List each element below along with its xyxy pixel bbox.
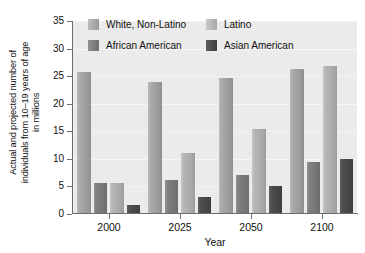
legend-label-asian-american: Asian American [224,40,293,51]
legend-label-african-american: African American [106,40,182,51]
bar-2100-white-non-latino [290,69,304,214]
x-axis-title: Year [73,236,357,248]
bar-2100-african-american [307,162,321,214]
bar-2025-asian-american [198,197,212,214]
bar-2050-latino [252,129,266,214]
bar-2000-african-american [94,183,108,214]
legend-entry-white-non-latino[interactable]: White, Non-Latino [88,19,186,30]
y-tick-mark-35 [67,21,72,22]
y-tick-label-20: 20 [18,99,64,109]
bar-2100-latino [323,66,337,214]
x-tick-mark-2100 [322,214,323,219]
y-axis-line [72,21,73,214]
x-tick-label-2100: 2100 [292,221,352,233]
x-tick-label-2025: 2025 [150,221,210,233]
legend-label-latino: Latino [224,19,251,30]
x-tick-mark-2000 [109,214,110,219]
legend: White, Non-Latino Latino African America… [88,14,338,58]
legend-swatch-asian-american [206,40,217,51]
x-tick-mark-2050 [251,214,252,219]
gridline-15 [73,131,357,132]
y-tick-mark-30 [67,49,72,50]
y-tick-mark-0 [67,214,72,215]
gridline-10 [73,159,357,160]
legend-entry-african-american[interactable]: African American [88,40,182,51]
y-tick-label-5: 5 [18,181,64,191]
y-tick-mark-10 [67,159,72,160]
bar-2050-white-non-latino [219,78,233,214]
legend-swatch-white-non-latino [88,19,99,30]
x-tick-label-2000: 2000 [79,221,139,233]
bar-2000-latino [110,183,124,214]
legend-entry-asian-american[interactable]: Asian American [206,40,293,51]
bar-2025-latino [181,153,195,214]
legend-label-white-non-latino: White, Non-Latino [106,19,186,30]
y-axis-ticks: 05101520253035 [16,0,64,253]
y-tick-label-35: 35 [18,16,64,26]
x-tick-mark-2025 [180,214,181,219]
bar-2050-asian-american [269,186,283,214]
gridline-20 [73,104,357,105]
gridline-25 [73,76,357,77]
y-tick-mark-5 [67,186,72,187]
y-tick-mark-15 [67,131,72,132]
legend-row-1: White, Non-Latino Latino [88,14,338,34]
x-axis-line [72,213,358,214]
legend-swatch-latino [206,19,217,30]
y-tick-label-0: 0 [18,209,64,219]
legend-entry-latino[interactable]: Latino [206,19,251,30]
x-tick-label-2050: 2050 [221,221,281,233]
y-tick-label-10: 10 [18,154,64,164]
bar-2025-white-non-latino [148,82,162,214]
y-tick-label-15: 15 [18,126,64,136]
y-tick-label-25: 25 [18,71,64,81]
legend-row-2: African American Asian American [88,35,338,55]
bar-2000-white-non-latino [77,72,91,214]
bar-chart-figure: Actual and projected number of individua… [0,0,365,253]
y-tick-label-30: 30 [18,44,64,54]
legend-swatch-african-american [88,40,99,51]
bar-2025-african-american [165,180,179,214]
y-tick-mark-25 [67,76,72,77]
y-tick-mark-20 [67,104,72,105]
bar-2050-african-american [236,175,250,214]
bar-2100-asian-american [340,159,354,214]
